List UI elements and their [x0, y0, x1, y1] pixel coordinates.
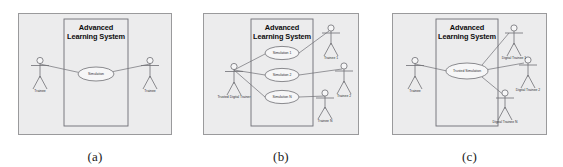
actor-label-trainee: Trainee [409, 89, 420, 93]
system-title-b: Advanced Learning System [251, 23, 313, 41]
use-case-label-simulation-1: Simulation 1 [273, 51, 292, 55]
system-title-a-line1: Advanced [64, 23, 128, 32]
use-case-label-simulation-2: Simulation 2 [273, 73, 292, 77]
caption-c: (c) [392, 149, 547, 165]
actor-label-trainee-right: Trainee [144, 89, 155, 93]
system-title-a: Advanced Learning System [64, 23, 128, 41]
system-title-c: Advanced Learning System [436, 23, 498, 41]
use-case-diagram-figure: Advanced Learning System Simulation Trai… [0, 0, 563, 167]
panel-c: Advanced Learning System Trusted Simulat… [392, 13, 547, 135]
panel-a: Advanced Learning System Simulation Trai… [18, 13, 172, 135]
actor-trainee-right [141, 57, 159, 89]
actor-trainee-1 [322, 25, 340, 56]
association-trusted-simulation-digital-trainee-2 [485, 63, 524, 70]
use-case-label-simulation-n: Simulation N [272, 95, 291, 99]
caption-a: (a) [18, 149, 172, 165]
panel-b: Advanced Learning System Simulation 1 Si… [203, 13, 359, 135]
caption-b: (b) [203, 149, 359, 165]
system-title-a-line2: Learning System [64, 32, 128, 41]
actor-trainee-n [316, 90, 334, 119]
actor-label-trusted-digital-trainer: Trusted Digital Trainer [217, 95, 250, 99]
actor-label-digital-trainee-2: Digital Trainee 2 [516, 88, 541, 92]
actor-label-digital-trainee-n: Digital Trainee N [492, 120, 517, 124]
use-case-label-trusted-simulation: Trusted Simulation [453, 69, 481, 73]
actor-trainee-left [31, 57, 49, 89]
actor-digital-trainee-1 [505, 25, 523, 56]
system-title-c-line2: Learning System [436, 32, 498, 41]
actor-label-trainee-1: Trainee 1 [324, 56, 338, 60]
actor-label-digital-trainee-1: Digital Trainee 1 [502, 56, 527, 60]
association-simulation-n-trainee-n [299, 96, 325, 97]
association-trainer-simulation-1 [234, 54, 265, 70]
actor-trainee [406, 57, 424, 89]
actor-label-trainee-left: Trainee [34, 89, 45, 93]
system-title-c-line1: Advanced [436, 23, 498, 32]
actor-trainee-2 [335, 63, 353, 94]
actor-trusted-digital-trainer [225, 63, 243, 95]
association-simulation-2-trainee-2 [299, 69, 342, 75]
actor-digital-trainee-2 [519, 57, 537, 88]
actor-label-trainee-n: Trainee N [318, 119, 333, 123]
system-title-b-line1: Advanced [251, 23, 313, 32]
use-case-label-simulation: Simulation [88, 72, 104, 76]
actor-label-trainee-2: Trainee 2 [337, 94, 351, 98]
actor-digital-trainee-n [496, 90, 514, 120]
system-title-b-line2: Learning System [251, 32, 313, 41]
association-trainee-trusted-simulation [415, 64, 447, 71]
